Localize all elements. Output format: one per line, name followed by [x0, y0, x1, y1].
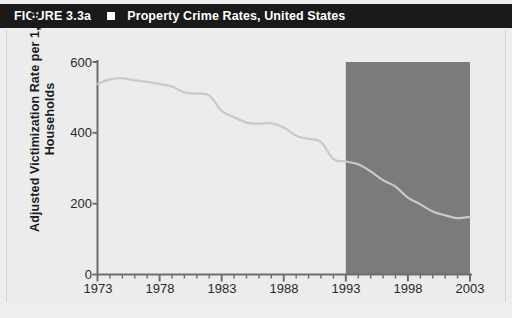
x-tick-label-1988: 1988: [261, 281, 307, 296]
x-tick-label-1983: 1983: [199, 281, 245, 296]
y-tick-label-200: 200: [52, 196, 92, 211]
x-tick-label-1973: 1973: [75, 281, 121, 296]
y-tick-label-600: 600: [52, 55, 92, 70]
figure-container: FIGURE 3.3a Property Crime Rates, United…: [0, 0, 512, 318]
x-tick-label-1998: 1998: [385, 281, 431, 296]
chart-plot-area: Adjusted Victimization Rate per 1,000 Ho…: [0, 0, 512, 300]
y-tick-label-0: 0: [52, 267, 92, 282]
x-tick-label-2003: 2003: [447, 281, 493, 296]
line-chart-canvas: [0, 0, 512, 300]
y-tick-label-400: 400: [52, 125, 92, 140]
x-tick-label-1993: 1993: [323, 281, 369, 296]
x-tick-label-1978: 1978: [137, 281, 183, 296]
